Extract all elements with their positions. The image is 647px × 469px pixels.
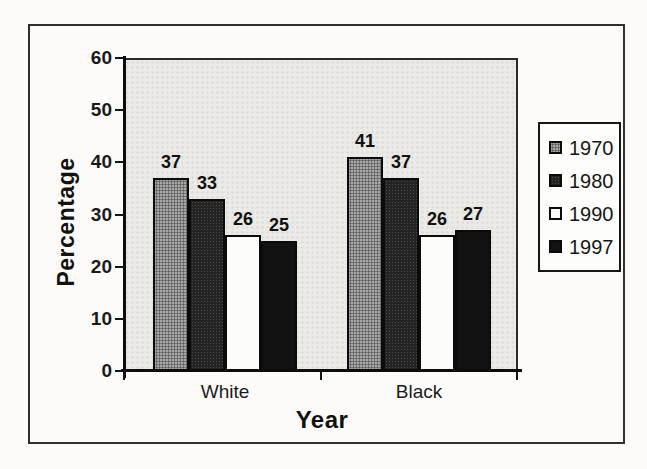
bar-value-label: 27 [463,204,483,225]
y-tick-label: 10 [68,308,112,330]
bar-group-black: 41372627 [347,60,491,371]
legend-label: 1997 [569,237,614,257]
bar-slot: 41 [347,157,383,371]
bar-1990-white [225,235,261,371]
y-tick-mark [115,266,124,268]
bar-group-white: 37332625 [153,60,297,371]
x-tick-mark [516,372,518,380]
y-tick-mark [115,109,124,111]
bar-value-label: 37 [161,152,181,173]
bar-value-label: 26 [427,209,447,230]
category-label-white: White [201,381,250,403]
legend-swatch-1980 [549,174,562,187]
bar-1980-white [189,199,225,371]
legend-label: 1990 [569,204,614,224]
bar-value-label: 33 [197,173,217,194]
bar-value-label: 25 [269,215,289,236]
bar-1997-black [455,230,491,371]
bar-value-label: 26 [233,209,253,230]
bar-1980-black [383,178,419,371]
y-tick-mark [115,214,124,216]
legend-item-1997: 1997 [549,237,615,257]
y-axis-line [123,56,126,378]
y-axis-title: Percentage [53,157,80,286]
y-tick-label: 60 [68,47,112,69]
scanned-bar-chart-figure: 3733262541372627 0102030405060 WhiteBlac… [0,0,647,469]
bar-slot: 26 [225,235,261,371]
legend-swatch-1990 [549,207,562,220]
bar-slot: 25 [261,241,297,371]
legend-swatch-1997 [549,240,562,253]
bar-slot: 33 [189,199,225,371]
legend-swatch-1970 [549,141,562,154]
legend-item-1990: 1990 [549,204,615,224]
y-tick-label: 0 [68,360,112,382]
bar-1997-white [261,241,297,371]
y-tick-label: 50 [68,99,112,121]
y-tick-mark [115,57,124,59]
bar-value-label: 37 [391,152,411,173]
y-tick-mark [115,161,124,163]
bar-slot: 37 [383,178,419,371]
bar-value-label: 41 [355,131,375,152]
bar-1970-white [153,178,189,371]
y-tick-mark [115,318,124,320]
bar-1990-black [419,235,455,371]
legend-item-1970: 1970 [549,138,615,158]
bar-slot: 27 [455,230,491,371]
legend-label: 1980 [569,171,614,191]
legend-label: 1970 [569,138,614,158]
plot-area: 3733262541372627 [125,58,518,371]
bar-slot: 26 [419,235,455,371]
legend: 1970198019901997 [538,122,621,272]
bar-slot: 37 [153,178,189,371]
x-tick-mark [123,372,125,380]
x-tick-mark [320,372,322,380]
category-label-black: Black [396,381,442,403]
bar-1970-black [347,157,383,371]
x-axis-title: Year [296,406,349,434]
legend-item-1980: 1980 [549,171,615,191]
